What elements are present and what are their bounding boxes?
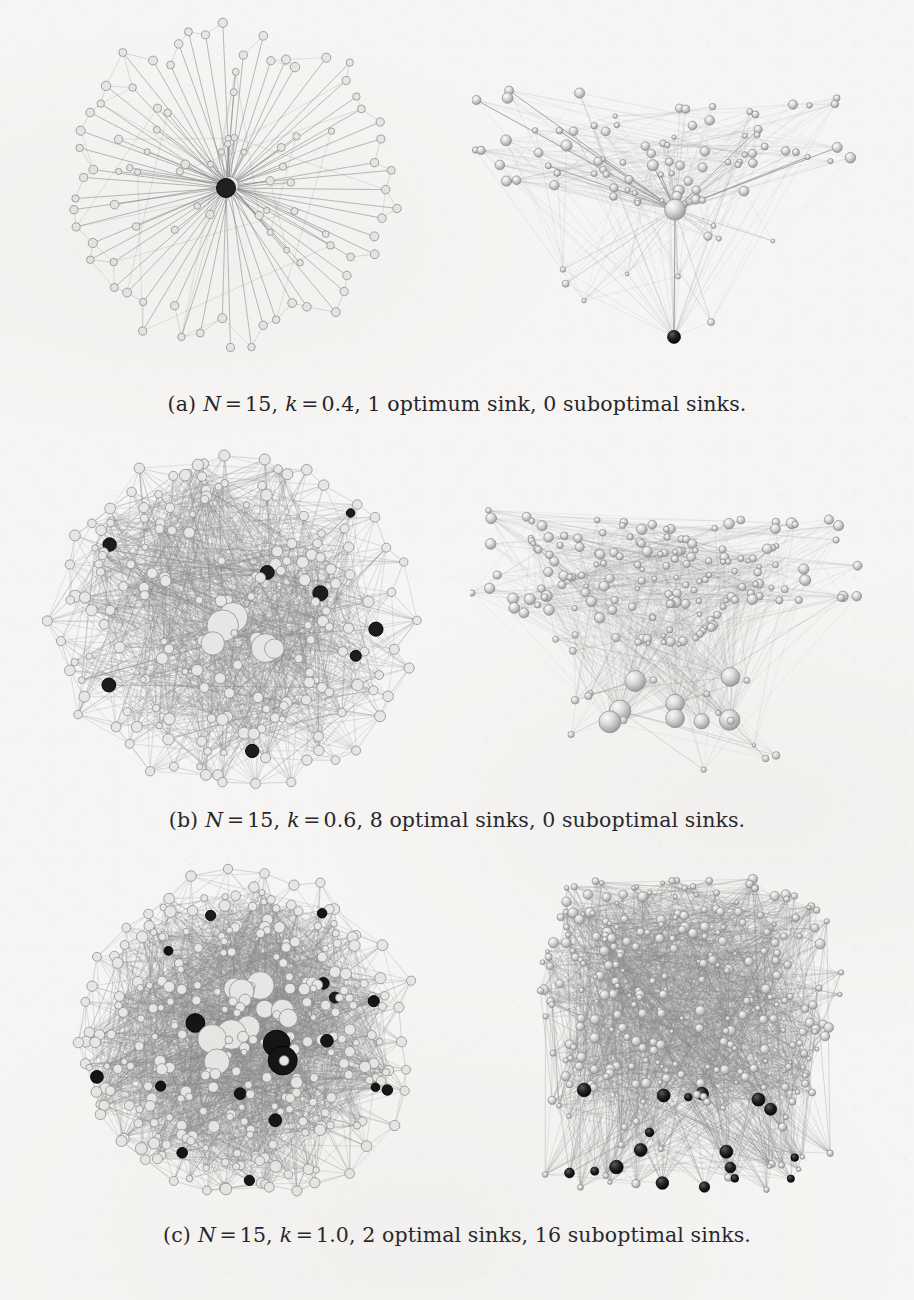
graph-node xyxy=(632,1080,640,1088)
graph-node xyxy=(311,598,320,607)
graph-node xyxy=(370,250,379,259)
graph-node xyxy=(603,171,610,178)
graph-node xyxy=(695,1024,704,1033)
graph-node xyxy=(302,755,312,765)
graph-node xyxy=(599,711,621,733)
graph-node xyxy=(646,641,651,646)
graph-node xyxy=(665,199,686,220)
graph-node xyxy=(110,258,117,265)
graph-node xyxy=(279,716,285,722)
graph-node xyxy=(225,1036,233,1044)
suboptimal-sink-node xyxy=(317,909,326,918)
graph-node xyxy=(762,544,772,554)
graph-node xyxy=(809,1089,816,1096)
graph-node xyxy=(636,994,642,1000)
graph-node xyxy=(643,1058,648,1063)
graph-node xyxy=(201,1071,210,1080)
graph-node xyxy=(771,524,781,534)
graph-node xyxy=(105,503,116,514)
graph-node xyxy=(88,519,97,528)
graph-node xyxy=(163,734,174,745)
graph-node xyxy=(148,1004,157,1013)
graph-node xyxy=(186,1093,193,1100)
optimum-sink-node xyxy=(369,622,383,636)
caption-c: (c) N=15, k=1.0, 2 optimal sinks, 16 sub… xyxy=(0,1223,914,1247)
graph-node xyxy=(304,621,312,629)
graph-node xyxy=(282,55,291,64)
graph-node xyxy=(824,919,829,924)
suboptimal-sink-node xyxy=(368,996,379,1007)
graph-node xyxy=(328,128,334,134)
graph-node xyxy=(590,910,596,916)
graph-node xyxy=(87,981,97,991)
graph-node xyxy=(721,668,740,687)
graph-node xyxy=(648,520,657,529)
network-graph-svg xyxy=(42,440,422,800)
graph-node xyxy=(753,581,759,587)
graph-node xyxy=(214,988,221,995)
graph-node xyxy=(313,539,322,548)
graph-node xyxy=(837,594,844,601)
graph-node xyxy=(594,517,600,523)
graph-node xyxy=(402,1065,411,1074)
graph-node xyxy=(303,1164,314,1175)
graph-node xyxy=(71,658,78,665)
graph-node xyxy=(703,1098,710,1105)
graph-node xyxy=(264,1182,274,1192)
suboptimal-sink-node xyxy=(234,1088,246,1100)
graph-node xyxy=(583,890,593,900)
graph-node xyxy=(176,168,183,175)
graph-node xyxy=(353,1039,359,1045)
graph-node xyxy=(367,1030,376,1039)
graph-node xyxy=(353,500,363,510)
graph-node xyxy=(382,1069,389,1076)
graph-node xyxy=(270,713,280,723)
graph-node xyxy=(615,901,619,905)
graph-node xyxy=(207,714,216,723)
graph-node xyxy=(267,896,275,904)
graph-node xyxy=(659,990,667,998)
graph-node xyxy=(512,176,521,185)
graph-node xyxy=(470,590,475,596)
graph-node xyxy=(317,952,327,962)
graph-node xyxy=(617,952,623,958)
optimum-sink-node xyxy=(668,330,681,343)
graph-node xyxy=(571,884,577,890)
graph-node xyxy=(673,915,678,920)
graph-node xyxy=(136,931,148,943)
graph-node xyxy=(316,878,325,887)
graph-node xyxy=(349,1001,357,1009)
graph-node xyxy=(562,897,572,907)
graph-node xyxy=(599,581,609,591)
graph-node xyxy=(74,710,83,719)
graph-node xyxy=(677,1071,685,1079)
graph-node xyxy=(696,1079,705,1088)
graph-node xyxy=(720,604,726,610)
graph-node xyxy=(272,316,280,324)
graph-node xyxy=(413,616,421,624)
graph-node xyxy=(127,560,136,569)
graph-node xyxy=(801,1080,809,1088)
graph-node xyxy=(399,558,407,566)
graph-node xyxy=(652,576,657,581)
graph-node xyxy=(207,161,213,167)
graph-node xyxy=(704,691,710,697)
graph-node xyxy=(123,288,132,297)
graph-node xyxy=(632,943,640,951)
graph-node xyxy=(154,104,162,112)
graph-node xyxy=(322,53,331,62)
graph-node xyxy=(708,955,717,964)
graph-node xyxy=(220,949,227,956)
graph-node xyxy=(637,928,645,936)
graph-node xyxy=(672,135,676,139)
caption-a-n-symbol: N xyxy=(203,392,222,416)
graph-node xyxy=(719,546,726,553)
graph-node xyxy=(735,162,741,168)
graph-node xyxy=(566,1081,573,1088)
graph-node xyxy=(282,469,293,480)
graph-node xyxy=(792,521,798,527)
graph-node xyxy=(208,1082,218,1092)
graph-nodes xyxy=(70,18,401,351)
graph-node xyxy=(614,122,620,128)
graph-node xyxy=(218,777,227,786)
